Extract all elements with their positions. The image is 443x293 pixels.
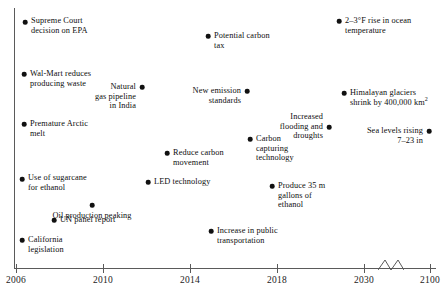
x-tick-label-2030: 2030 bbox=[354, 275, 374, 285]
event-dot[interactable] bbox=[23, 20, 28, 25]
event-label: 2–3°F rise in ocean temperature bbox=[345, 16, 411, 35]
event-label: LED technology bbox=[154, 177, 210, 187]
event-label: New emission standards bbox=[0, 86, 241, 105]
x-tick-label-2010: 2010 bbox=[93, 275, 113, 285]
event-dot[interactable] bbox=[165, 151, 170, 156]
x-tick-label-2018: 2018 bbox=[267, 275, 287, 285]
event-label: Produce 35 m gallons of ethanol bbox=[278, 181, 325, 210]
x-axis-line bbox=[14, 268, 436, 269]
x-tick-label-2100: 2100 bbox=[420, 275, 440, 285]
event-dot[interactable] bbox=[146, 180, 151, 185]
event-dot[interactable] bbox=[427, 129, 432, 134]
event-dot[interactable] bbox=[342, 91, 347, 96]
x-tick-mark bbox=[430, 264, 431, 273]
x-tick-label-2014: 2014 bbox=[180, 275, 200, 285]
event-dot[interactable] bbox=[209, 229, 214, 234]
event-label: Reduce carbon movement bbox=[173, 148, 224, 167]
event-dot[interactable] bbox=[245, 89, 250, 94]
x-tick-mark bbox=[103, 264, 104, 273]
event-label-superscript: 2 bbox=[425, 96, 428, 102]
event-dot[interactable] bbox=[22, 72, 27, 77]
event-dot[interactable] bbox=[20, 238, 25, 243]
event-dot[interactable] bbox=[90, 203, 95, 208]
event-label: Use of sugarcane for ethanol bbox=[28, 173, 87, 192]
event-label: Oil production peaking bbox=[32, 211, 152, 221]
event-label: Supreme Court decision on EPA bbox=[31, 16, 88, 35]
event-dot[interactable] bbox=[337, 19, 342, 24]
x-tick-label-2006: 2006 bbox=[6, 275, 26, 285]
event-dot[interactable] bbox=[20, 177, 25, 182]
timeline-scatter-chart: 200620102014201820302100 Supreme Court d… bbox=[0, 0, 443, 293]
event-label: Himalayan glaciers shrink by 400,000 km2 bbox=[350, 88, 428, 107]
event-dot[interactable] bbox=[270, 184, 275, 189]
axis-break-icon bbox=[378, 259, 404, 271]
x-tick-mark bbox=[190, 264, 191, 273]
event-label: Increase in public transportation bbox=[217, 226, 278, 245]
event-dot[interactable] bbox=[206, 34, 211, 39]
event-label: Potential carbon tax bbox=[214, 31, 270, 50]
event-label: California legislation bbox=[28, 235, 64, 254]
x-tick-mark bbox=[364, 264, 365, 273]
event-label: Sea levels rising 7–23 in bbox=[0, 126, 423, 145]
x-tick-mark bbox=[16, 264, 17, 273]
x-tick-mark bbox=[277, 264, 278, 273]
